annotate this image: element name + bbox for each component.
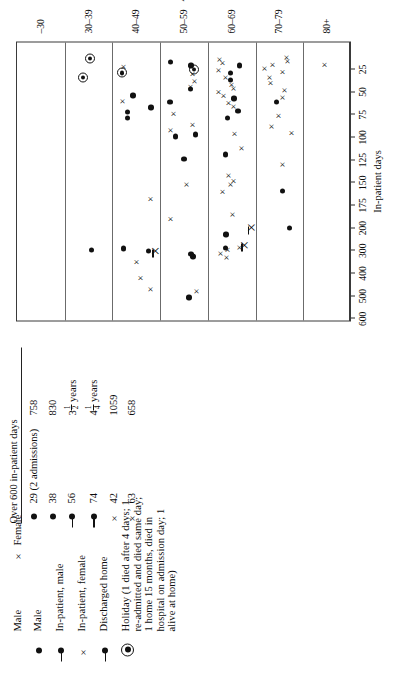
data-point — [78, 72, 88, 82]
circled-dot-icon — [120, 631, 135, 657]
female-cross-with-tail-icon: × — [76, 631, 91, 657]
over-600-days: 830 — [47, 355, 58, 415]
data-point: × — [281, 54, 292, 60]
data-point: × — [165, 216, 176, 222]
x-axis-tick-label: 100 — [357, 130, 368, 144]
data-point — [146, 248, 151, 253]
x-axis-line — [350, 41, 351, 321]
data-point: × — [243, 223, 261, 232]
y-axis-title: Age groups — [175, 0, 186, 1]
x-axis-tick-label: 150 — [357, 175, 368, 189]
data-point — [186, 294, 191, 299]
y-axis-tick-label: 40–49 — [130, 9, 141, 33]
data-point — [148, 104, 153, 109]
table-row: 29 (2 admissions) 758 — [27, 345, 40, 523]
data-point: × — [217, 188, 228, 194]
data-point — [287, 225, 292, 230]
table-row: × 42 1059 — [107, 345, 120, 523]
data-point: × — [181, 181, 192, 187]
table-row: 38 830 — [46, 345, 59, 523]
x-axis-tick-label: 300 — [357, 243, 368, 257]
data-point — [231, 95, 236, 100]
figure-canvas: Male × Female Male In-patient, male × — [0, 0, 410, 673]
table-row: 74 414 years — [85, 345, 101, 523]
legend-item-label: Discharged home — [98, 556, 110, 631]
table-row: × 63 658 — [125, 345, 138, 523]
over-600-days: 758 — [28, 355, 39, 415]
y-axis-tick-label: –30 — [34, 19, 45, 33]
x-axis: 600500400300200175150125100755025 — [350, 41, 351, 321]
data-point — [85, 53, 95, 63]
data-point — [89, 247, 94, 252]
over-600-days: 414 years — [85, 355, 101, 415]
over-600-age: 38 — [47, 415, 58, 503]
x-axis-tick-label: 600 — [357, 311, 368, 325]
y-axis-tick-label: 60–69 — [225, 9, 236, 33]
male-dot-icon — [46, 503, 59, 523]
data-point — [223, 151, 228, 156]
data-point — [167, 99, 172, 104]
data-point: × — [226, 81, 237, 87]
male-dot-with-tail-icon — [87, 503, 100, 523]
data-point — [225, 115, 230, 120]
data-point: × — [267, 61, 278, 67]
data-point: × — [277, 94, 288, 100]
male-dot-icon — [32, 631, 47, 657]
data-point: × — [277, 69, 288, 75]
data-point: × — [279, 87, 290, 93]
male-dot-with-tail-icon — [54, 631, 69, 657]
data-point: × — [229, 130, 240, 136]
data-point: × — [187, 121, 198, 127]
over-600-age: 63 — [126, 415, 137, 503]
data-point: × — [223, 172, 234, 178]
data-point: × — [234, 244, 245, 250]
band-separator — [256, 42, 257, 320]
data-point: × — [273, 112, 284, 118]
data-point — [181, 156, 186, 161]
data-point: × — [266, 123, 277, 129]
data-point: × — [135, 275, 146, 281]
legend-item-label: In-patient, female — [76, 555, 88, 631]
male-dot-with-tail-icon — [98, 631, 113, 657]
scatter-chart: ××××××××××××××××××××××××××××××××××××××××… — [0, 0, 410, 337]
x-axis-tick-label: 75 — [357, 109, 368, 119]
over-600-days: 658 — [126, 355, 137, 415]
legend: Male × Female Male In-patient, male × — [0, 337, 205, 673]
data-point: × — [145, 286, 156, 292]
over-600-days: 1059 — [108, 355, 119, 415]
x-axis-tick-label: 500 — [357, 288, 368, 302]
male-dot-icon — [27, 503, 40, 523]
data-point — [188, 62, 193, 67]
data-point — [125, 109, 130, 114]
band-separator — [112, 42, 113, 320]
data-point: × — [227, 211, 238, 217]
band-separator — [208, 42, 209, 320]
data-point — [173, 133, 178, 138]
data-point — [121, 245, 126, 250]
legend-header-male: Male — [12, 567, 23, 631]
over-600-age: 56 — [66, 415, 77, 503]
data-point — [193, 131, 198, 136]
over-600-age: 29 (2 admissions) — [28, 415, 39, 503]
data-point — [130, 92, 135, 97]
data-point: × — [213, 89, 224, 95]
x-axis-tick-label: 175 — [357, 198, 368, 212]
band-separator — [160, 42, 161, 320]
over-600-days: 312 years — [64, 355, 80, 415]
data-point — [228, 70, 233, 75]
plot-area: ××××××××××××××××××××××××××××××××××××××××… — [16, 41, 350, 321]
data-point — [223, 231, 228, 236]
data-point: × — [168, 110, 179, 116]
table-row: 56 312 years — [64, 345, 80, 523]
data-point: × — [213, 67, 224, 73]
male-dot-with-tail-icon — [65, 503, 78, 523]
data-point: × — [117, 98, 128, 104]
over-600-age: 42 — [108, 415, 119, 503]
data-point: × — [236, 145, 247, 151]
x-axis-tick-label: 125 — [357, 152, 368, 166]
legend-header-spacer — [10, 631, 25, 657]
x-axis-tick-label: 400 — [357, 266, 368, 280]
data-point — [188, 251, 193, 256]
data-point: × — [319, 61, 330, 67]
over-600-title: Over 600 in-patient days — [8, 345, 21, 523]
